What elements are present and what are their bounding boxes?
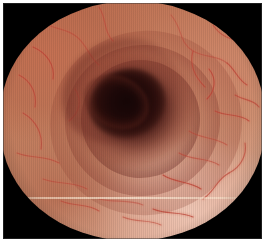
endoscope-field-of-view [3,3,262,239]
vessel-segment [23,113,41,149]
vessel-segment [19,75,35,107]
image-caption: Endoscopic view of the esophageal lumen … [0,0,1,1]
endoscopy-screenshot: Endoscopic view of the esophageal lumen … [0,0,274,243]
vessel-segment [189,131,227,145]
vessel-segment [99,7,113,41]
vessel-segment [153,209,193,217]
vessel-segment [99,199,143,205]
vessel-segment [17,153,59,163]
vessel-segment [207,69,214,99]
endoscopy-photo-frame [3,3,262,239]
vessel-segment [203,173,229,199]
vessel-segment [227,63,247,85]
vessel-segment [33,47,53,79]
vessel-segment [192,51,205,87]
vessel-segment [179,153,219,165]
vessel-segment [163,175,201,189]
vessel-segment [213,25,245,39]
vessel-segment [61,201,99,211]
vessel-segment [229,143,245,173]
vessel-segment [123,217,161,225]
vessel-segment [43,179,87,189]
vessel-segment [171,15,227,63]
vessel-segment [235,95,259,107]
vessel-segment [215,111,249,121]
